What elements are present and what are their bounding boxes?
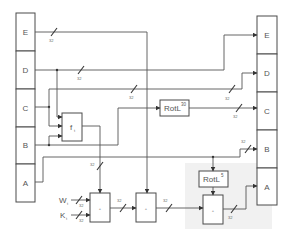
svg-text:32: 32 [228,215,233,220]
rotl30-label: RotL [164,104,181,113]
svg-text:32: 32 [233,114,238,119]
function-ft: f t [62,113,82,141]
rotl5-box: RotL 5 [199,171,228,187]
svg-text:32: 32 [163,198,168,203]
adder-1: + [90,193,110,222]
diagram-svg: E D C B A E D C B A f t RotL 30 RotL 5 + [0,0,293,238]
output-label-c: C [264,107,270,116]
sha1-round-diagram: E D C B A E D C B A f t RotL 30 RotL 5 + [0,0,293,238]
rotl5-label: RotL [203,175,220,184]
output-label-e: E [264,31,269,40]
output-register-stack: E D C B A [257,16,277,205]
wt-sub: t [67,201,69,206]
output-label-d: D [264,69,270,78]
wt-label: W [59,196,67,205]
rotl30-sup: 30 [181,102,187,107]
svg-text:32: 32 [49,38,54,43]
svg-text:32: 32 [225,96,230,101]
svg-text:32: 32 [241,139,246,144]
input-label-b: B [23,141,28,150]
input-label-d: D [23,66,29,75]
input-register-stack: E D C B A [16,13,35,202]
svg-text:32: 32 [79,203,84,208]
adder-3: + [203,195,223,224]
output-label-b: B [264,145,269,154]
svg-text:32: 32 [79,218,84,223]
adder-2: + [136,193,156,222]
output-label-a: A [264,183,270,192]
input-label-c: C [23,104,29,113]
svg-text:32: 32 [90,162,95,167]
input-label-e: E [23,28,28,37]
rotl30-box: RotL 30 [160,100,189,116]
kt-sub: t [66,216,68,221]
svg-text:32: 32 [77,76,82,81]
svg-text:32: 32 [117,198,122,203]
svg-text:32: 32 [129,95,134,100]
input-label-a: A [23,179,29,188]
